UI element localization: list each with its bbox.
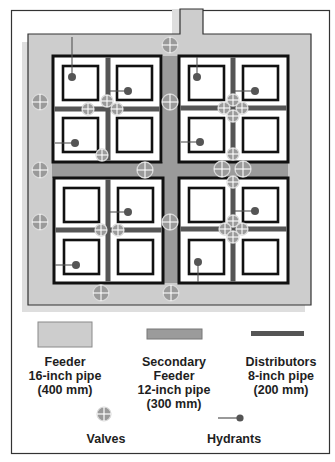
building-lot [189,188,224,222]
valve-icon [227,110,239,122]
valve-icon [227,176,239,188]
valve-icon [95,224,107,236]
building-lot [189,118,224,152]
legend-valve-icon [97,407,111,421]
legend-distributors-swatch [251,331,304,336]
distributor-pipe-horizontal [56,228,162,233]
valve-icon [162,37,178,53]
legend-distributors-line-3: (200 mm) [254,383,309,397]
valve-icon [112,224,124,236]
valve-icon [96,149,108,161]
legend-secondary-feeder-label: Secondary Feeder 12-inch pipe (300 mm) [138,355,211,411]
building-lot [63,66,98,100]
legend-secondary-line-3: 12-inch pipe [138,383,211,397]
building-lot [189,66,224,100]
legend-secondary-line-1: Secondary [142,355,206,369]
valve-icon [32,94,48,110]
building-lot [118,188,153,222]
building-lot [189,240,224,274]
building-lot [243,188,278,222]
legend-distributors-label: Distributors 8-inch pipe (200 mm) [246,355,317,397]
valve-icon [32,162,48,178]
legend-secondary-feeder-swatch [147,329,202,339]
legend-distributors-line-1: Distributors [246,355,317,369]
valve-icon [32,214,48,230]
building-lot [243,240,278,274]
valve-icon [162,94,178,110]
valve-icon [163,285,179,301]
legend-secondary-line-2: Feeder [154,369,195,383]
building-lot [64,240,99,274]
building-lot [243,118,278,152]
legend-secondary-line-4: (300 mm) [147,397,202,411]
building-lot [64,188,99,222]
valve-icon [227,231,239,243]
legend-feeder-swatch [38,322,92,347]
legend-feeder-line-1: Feeder [45,355,86,369]
secondary-feeder-segment [52,162,288,178]
water-distribution-diagram: Feeder 16-inch pipe (400 mm) Secondary F… [0,0,335,462]
valve-icon [162,214,178,230]
legend-hydrants-label: Hydrants [207,432,261,446]
valve-icon [111,103,123,115]
building-lot [117,66,152,100]
building-lot [118,240,153,274]
building-lot [243,66,278,100]
building-lot [63,118,98,152]
legend-distributors-line-2: 8-inch pipe [248,369,314,383]
valve-icon [101,95,113,107]
valve-icon [214,161,230,177]
valve-icon [82,103,94,115]
block-top-left [53,56,161,162]
legend-feeder-line-3: (400 mm) [38,383,93,397]
building-lot [117,118,152,152]
valve-icon [227,148,239,160]
legend-valves-label: Valves [87,432,126,446]
valve-icon [137,162,153,178]
block-top-right [179,56,288,162]
legend-feeder-line-2: 16-inch pipe [29,369,102,383]
block-bottom-left [54,178,163,283]
valve-icon [235,161,251,177]
valve-icon [93,285,109,301]
